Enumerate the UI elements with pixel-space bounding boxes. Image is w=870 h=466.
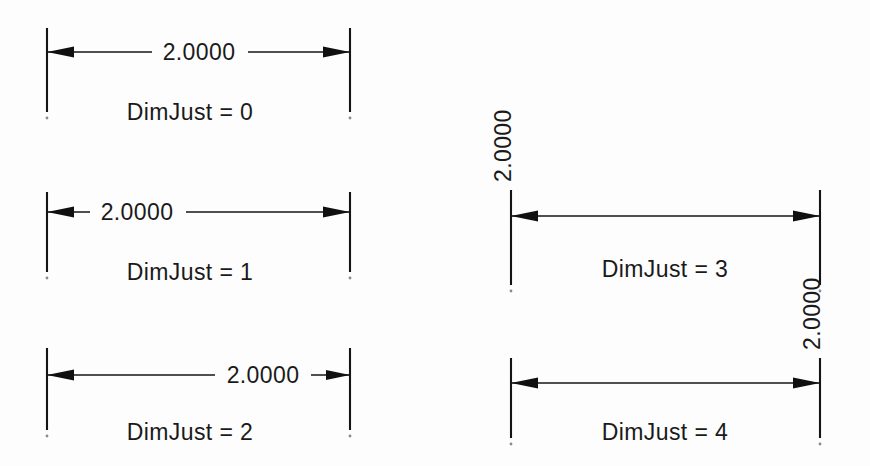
dimjust-caption-label: DimJust = 4 — [602, 419, 728, 445]
arrowhead-left-icon — [511, 378, 538, 389]
extension-line-right-tick — [349, 277, 352, 280]
extension-line-right-tick — [819, 443, 822, 446]
extension-line-right-tick — [349, 435, 352, 438]
dimension-justification-figure: 2.0000 DimJust = 0 2.0000 DimJust = 1 — [0, 0, 870, 466]
arrowhead-right-icon — [326, 370, 350, 380]
extension-line-left-tick — [46, 117, 49, 120]
arrowhead-right-icon — [323, 47, 350, 58]
dimension-group-dimjust-1: 2.0000 DimJust = 1 — [46, 192, 352, 285]
extension-line-left-tick — [510, 290, 513, 293]
dimjust-caption-label: DimJust = 1 — [127, 259, 253, 285]
arrowhead-left-icon — [511, 211, 538, 222]
dimension-group-dimjust-4: 2.0000 DimJust = 4 — [510, 277, 825, 445]
dimjust-caption-label: DimJust = 2 — [127, 419, 253, 445]
dimension-group-dimjust-2: 2.0000 DimJust = 2 — [46, 348, 352, 445]
dimension-group-dimjust-0: 2.0000 DimJust = 0 — [46, 28, 352, 125]
dimension-value-label: 2.0000 — [227, 362, 300, 388]
extension-line-left-tick — [46, 277, 49, 280]
extension-line-left-tick — [510, 443, 513, 446]
arrowhead-right-icon — [793, 378, 820, 389]
arrowhead-right-icon — [793, 211, 820, 222]
extension-line-right-tick — [349, 117, 352, 120]
dimension-value-label-vertical: 2.0000 — [490, 109, 516, 182]
dimjust-caption-label: DimJust = 0 — [127, 99, 253, 125]
dimjust-caption-label: DimJust = 3 — [602, 256, 728, 282]
dimension-value-label: 2.0000 — [163, 39, 236, 65]
dimension-group-dimjust-3: 2.0000 DimJust = 3 — [490, 109, 821, 292]
dimension-drawing-canvas: 2.0000 DimJust = 0 2.0000 DimJust = 1 — [0, 0, 870, 466]
arrowhead-left-icon — [47, 207, 74, 218]
extension-line-left-tick — [46, 435, 49, 438]
arrowhead-left-icon — [47, 47, 74, 58]
arrowhead-right-icon — [323, 207, 350, 218]
dimension-value-label-vertical: 2.0000 — [799, 277, 825, 350]
arrowhead-left-icon — [47, 370, 74, 381]
dimension-value-label: 2.0000 — [101, 199, 174, 225]
